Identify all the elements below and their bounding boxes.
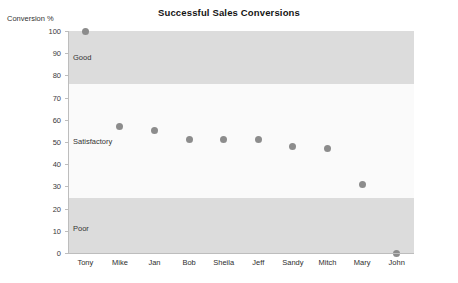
y-tick-label-20: 20 xyxy=(31,204,61,213)
data-point-bob xyxy=(186,136,193,143)
data-point-tony xyxy=(82,28,89,35)
y-tick-label-100: 100 xyxy=(31,27,61,36)
band-label-good: Good xyxy=(73,53,91,62)
y-tick-mark-0 xyxy=(65,253,68,254)
x-axis-line xyxy=(68,253,414,254)
y-axis-line xyxy=(68,31,69,253)
y-tick-label-90: 90 xyxy=(31,49,61,58)
x-tick-label-bob: Bob xyxy=(182,258,195,267)
y-tick-label-30: 30 xyxy=(31,182,61,191)
band-label-satisfactory: Satisfactory xyxy=(73,137,112,146)
y-tick-mark-60 xyxy=(65,120,68,121)
y-tick-mark-100 xyxy=(65,31,68,32)
y-axis-label: Conversion % xyxy=(7,14,54,23)
y-tick-mark-90 xyxy=(65,53,68,54)
y-tick-mark-70 xyxy=(65,98,68,99)
x-tick-label-jan: Jan xyxy=(148,258,160,267)
y-tick-mark-80 xyxy=(65,75,68,76)
y-tick-label-10: 10 xyxy=(31,226,61,235)
y-tick-label-60: 60 xyxy=(31,115,61,124)
y-tick-mark-50 xyxy=(65,142,68,143)
band-label-poor: Poor xyxy=(73,224,89,233)
x-tick-label-sandy: Sandy xyxy=(282,258,303,267)
y-tick-mark-30 xyxy=(65,186,68,187)
x-tick-label-jeff: Jeff xyxy=(252,258,264,267)
x-tick-label-mike: Mike xyxy=(112,258,128,267)
y-tick-mark-20 xyxy=(65,209,68,210)
x-tick-label-john: John xyxy=(389,258,405,267)
band-poor xyxy=(68,198,414,254)
x-tick-label-tony: Tony xyxy=(77,258,93,267)
y-tick-label-50: 50 xyxy=(31,138,61,147)
chart-title: Successful Sales Conversions xyxy=(0,7,458,18)
band-good xyxy=(68,31,414,84)
y-tick-label-70: 70 xyxy=(31,93,61,102)
data-point-mary xyxy=(359,181,366,188)
y-tick-mark-40 xyxy=(65,164,68,165)
x-tick-label-mary: Mary xyxy=(354,258,371,267)
y-tick-label-0: 0 xyxy=(31,249,61,258)
y-tick-label-40: 40 xyxy=(31,160,61,169)
y-tick-mark-10 xyxy=(65,231,68,232)
x-tick-label-sheila: Sheila xyxy=(213,258,234,267)
plot-area: GoodSatisfactoryPoor xyxy=(68,31,414,253)
x-tick-label-mitch: Mitch xyxy=(319,258,337,267)
y-tick-label-80: 80 xyxy=(31,71,61,80)
sales-conversion-chart: Successful Sales Conversions Conversion … xyxy=(0,0,458,283)
